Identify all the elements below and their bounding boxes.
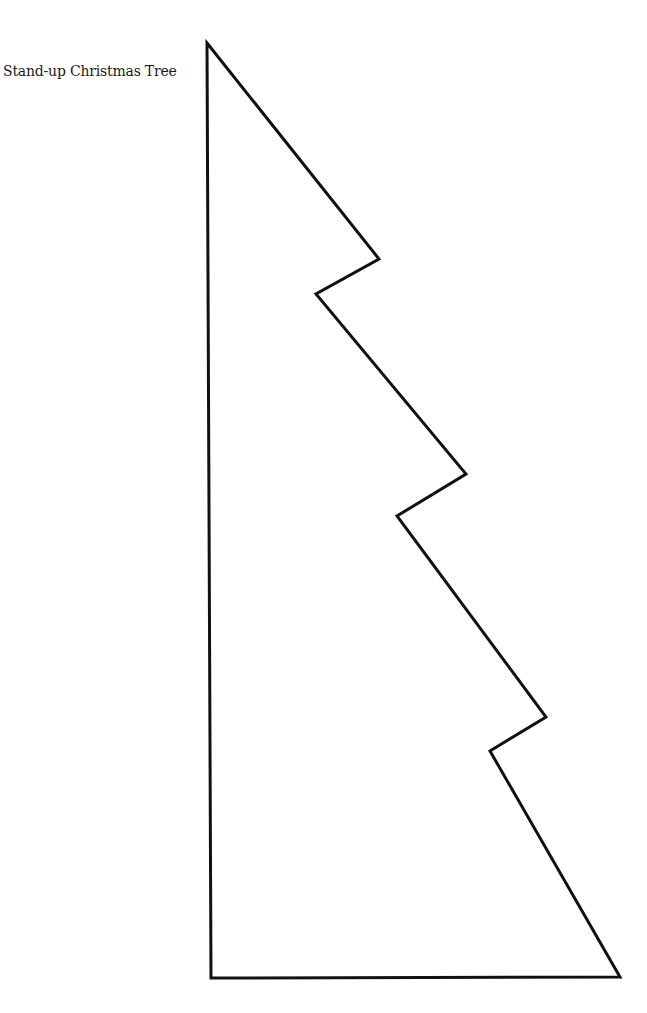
printable-page: Stand-up Christmas Tree: [0, 0, 647, 1013]
tree-shape: [207, 43, 620, 978]
tree-outline-icon: [0, 0, 647, 1013]
